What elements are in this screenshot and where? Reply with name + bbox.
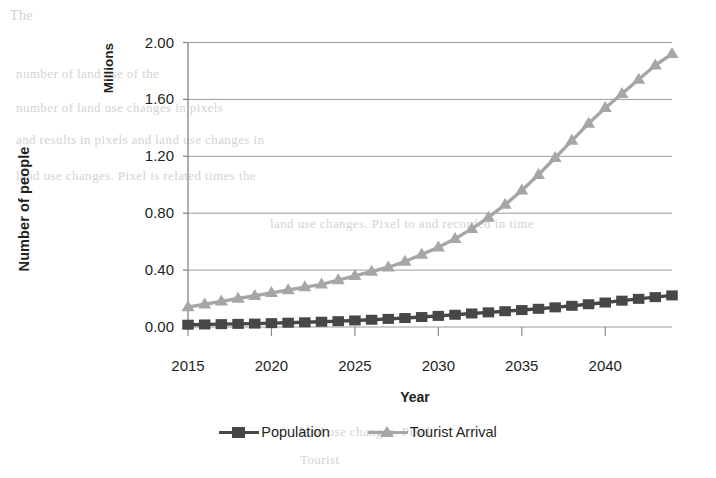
tourist-arrival-marker-icon bbox=[368, 424, 408, 440]
marker-square bbox=[266, 318, 278, 328]
series-line-tourist-arrival bbox=[188, 54, 672, 307]
marker-square bbox=[399, 313, 411, 323]
marker-square bbox=[599, 298, 611, 308]
marker-square bbox=[549, 302, 561, 312]
marker-square bbox=[216, 319, 228, 329]
legend-label: Population bbox=[261, 424, 330, 440]
marker-square bbox=[566, 301, 578, 311]
marker-square bbox=[616, 296, 628, 306]
marker-square bbox=[533, 304, 545, 314]
marker-square bbox=[483, 307, 495, 317]
marker-square bbox=[516, 305, 528, 315]
chart-legend: Population Tourist Arrival bbox=[0, 424, 716, 440]
marker-square bbox=[199, 319, 211, 329]
line-chart: Millions Number of people Year 0.000.400… bbox=[0, 0, 716, 478]
marker-square bbox=[583, 299, 595, 309]
marker-square bbox=[316, 317, 328, 327]
marker-square bbox=[449, 310, 461, 320]
marker-square bbox=[633, 294, 645, 304]
marker-square bbox=[499, 306, 511, 316]
marker-square bbox=[232, 319, 244, 329]
marker-square bbox=[666, 290, 678, 300]
legend-item-population[interactable]: Population bbox=[219, 424, 330, 440]
marker-square bbox=[383, 314, 395, 324]
marker-square bbox=[466, 308, 478, 318]
plot-area bbox=[0, 0, 716, 478]
legend-label: Tourist Arrival bbox=[410, 424, 497, 440]
marker-square bbox=[433, 311, 445, 321]
marker-square bbox=[249, 319, 260, 329]
marker-square bbox=[182, 320, 194, 330]
legend-item-tourist-arrival[interactable]: Tourist Arrival bbox=[368, 424, 497, 440]
marker-square bbox=[416, 312, 428, 322]
marker-square bbox=[366, 315, 378, 325]
marker-square bbox=[299, 317, 311, 327]
marker-square bbox=[282, 318, 294, 328]
marker-square bbox=[650, 292, 662, 302]
marker-triangle bbox=[666, 47, 679, 58]
marker-square bbox=[332, 316, 344, 326]
marker-square bbox=[349, 315, 361, 325]
population-marker-icon bbox=[219, 424, 259, 440]
